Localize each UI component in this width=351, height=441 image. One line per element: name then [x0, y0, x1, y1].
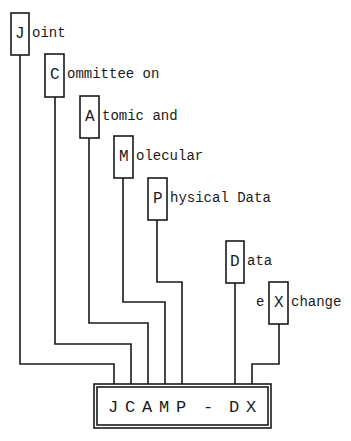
- word-joint-rest: oint: [32, 25, 66, 41]
- acronym-letter-j: J: [108, 398, 118, 417]
- letter-m: M: [119, 148, 129, 166]
- acronym-letter-p: P: [176, 398, 186, 417]
- acronym-dash: -: [203, 398, 213, 417]
- word-physical-data-rest: hysical Data: [170, 190, 271, 206]
- acronym-letter-a: A: [142, 398, 153, 417]
- word-exchange-rest: change: [291, 294, 341, 310]
- word-data-rest: ata: [247, 253, 272, 269]
- word-exchange-prefix: e: [256, 294, 264, 310]
- letter-p: P: [153, 190, 163, 208]
- word-atomic-rest: tomic and: [102, 108, 178, 124]
- term-exchange: e X change: [256, 282, 341, 324]
- acronym-letter-x: X: [246, 398, 256, 417]
- term-atomic: A tomic and: [80, 96, 178, 138]
- acronym-letter-c: C: [125, 398, 135, 417]
- letter-x: X: [274, 294, 284, 312]
- term-molecular: M olecular: [114, 136, 203, 178]
- wire-j: [20, 55, 114, 384]
- letter-c: C: [50, 66, 60, 84]
- letter-j: J: [15, 25, 25, 43]
- term-joint: J oint: [11, 13, 66, 55]
- term-committee: C ommittee on: [45, 54, 159, 97]
- letter-a: A: [85, 108, 95, 126]
- letter-d: D: [230, 253, 240, 271]
- wire-x: [252, 324, 279, 384]
- acronym-text: J C A M P - D X: [108, 398, 256, 417]
- jcamp-dx-diagram: J oint C ommittee on A tomic and M olecu…: [0, 0, 351, 441]
- acronym-letter-m: M: [159, 398, 169, 417]
- word-molecular-rest: olecular: [136, 148, 203, 164]
- acronym-letter-d: D: [229, 398, 239, 417]
- acronym-box: J C A M P - D X: [94, 384, 271, 428]
- term-data: D ata: [226, 241, 272, 283]
- word-committee-rest: ommittee on: [67, 66, 159, 82]
- term-physical-data: P hysical Data: [148, 178, 271, 220]
